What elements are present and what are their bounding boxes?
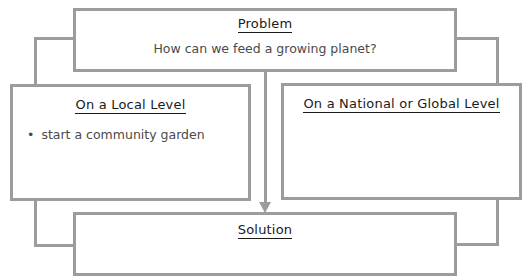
connector-left-bottom-horizontal — [34, 244, 76, 247]
local-level-box: On a Local Level start a community garde… — [10, 84, 251, 201]
connector-right-bottom-vertical — [496, 198, 499, 246]
connector-left-bottom-vertical — [34, 198, 37, 247]
problem-heading: Problem — [76, 16, 454, 33]
solution-heading: Solution — [76, 222, 454, 239]
connector-left-top-horizontal — [34, 37, 76, 40]
solution-box: Solution — [73, 212, 457, 276]
connector-left-top-vertical — [34, 37, 37, 87]
problem-question: How can we feed a growing planet? — [76, 41, 454, 56]
connector-center-vertical — [264, 69, 267, 203]
connector-right-top-vertical — [496, 37, 499, 87]
connector-right-bottom-horizontal — [453, 243, 499, 246]
global-level-heading: On a National or Global Level — [284, 96, 519, 113]
problem-box: Problem How can we feed a growing planet… — [73, 8, 457, 72]
global-level-box: On a National or Global Level — [281, 83, 522, 200]
local-level-heading: On a Local Level — [13, 97, 248, 114]
connector-right-top-horizontal — [453, 37, 499, 40]
local-level-list: start a community garden — [27, 127, 205, 142]
list-item: start a community garden — [27, 127, 205, 142]
